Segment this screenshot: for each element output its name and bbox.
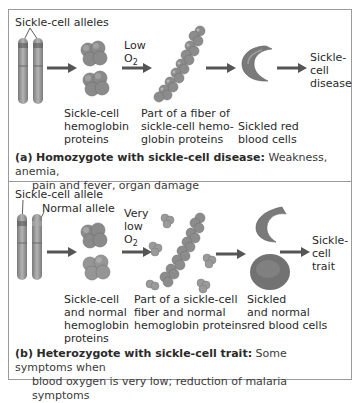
label-sickle-cell-hemoglobin: Sickle-cellhemoglobinproteins bbox=[64, 107, 129, 146]
caption-panel-b: (b) Heterozygote with sickle-cell trait:… bbox=[15, 347, 345, 403]
label-fiber: Part of a fiber ofsickle-cell hemo-globi… bbox=[141, 107, 234, 146]
label-fiber-and-normal: Part of a sickle-cellfiber and normalhem… bbox=[134, 293, 247, 332]
chromosome-pair-icon bbox=[14, 198, 54, 282]
hemoglobin-protein-icon bbox=[76, 222, 116, 284]
arrow-icon bbox=[206, 63, 236, 73]
normal-red-blood-cell-icon bbox=[248, 252, 292, 292]
arrow-icon bbox=[47, 63, 77, 73]
arrow-icon bbox=[277, 63, 307, 73]
caption-panel-a: (a) Homozygote with sickle-cell disease:… bbox=[15, 151, 345, 193]
label-sickled-cells: Sickled redblood cells bbox=[238, 120, 299, 146]
label-sickle-and-normal-hemoglobin: Sickle-celland normalhemoglobinproteins bbox=[64, 293, 129, 345]
sickled-cell-icon bbox=[240, 44, 274, 84]
outcome-sickle-cell-trait: Sickle-celltrait bbox=[312, 234, 348, 273]
hemoglobin-protein-icon bbox=[76, 40, 116, 100]
outcome-sickle-cell-disease: Sickle-celldisease bbox=[310, 51, 352, 90]
arrow-icon bbox=[216, 249, 246, 259]
arrow-icon bbox=[122, 63, 152, 73]
arrow-icon bbox=[47, 247, 77, 257]
label-sickled-and-normal-cells: Sickledand normalred blood cells bbox=[247, 293, 327, 332]
hemoglobin-fiber-with-normal-proteins-icon bbox=[145, 208, 220, 298]
sickled-cell-icon bbox=[252, 206, 288, 246]
arrow-icon bbox=[280, 247, 310, 257]
hemoglobin-fiber-icon bbox=[150, 24, 210, 104]
